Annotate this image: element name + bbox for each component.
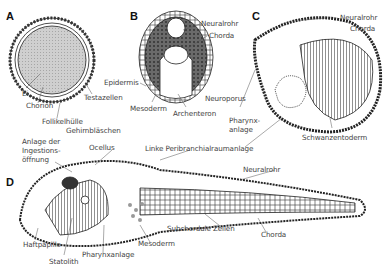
label-haftpapille: Haftpapille xyxy=(23,241,61,249)
label-statolith: Statolith xyxy=(49,258,78,266)
label-peribranchial: Linke Peribranchialraumanlage xyxy=(145,145,253,153)
panel-c-embryo xyxy=(254,18,380,132)
label-pharynx-1: Pharynx- xyxy=(229,117,260,125)
label-epidermis: Epidermis xyxy=(104,79,139,87)
label-neuroporus: Neuroporus xyxy=(205,95,246,103)
label-gehirnblaeschen: Gehirnbläschen xyxy=(66,127,121,135)
label-d-neuralrohr: Neuralrohr xyxy=(243,166,280,174)
panel-letter-d: D xyxy=(6,176,14,188)
label-d-chorda: Chorda xyxy=(261,231,286,239)
label-ei: Ei xyxy=(22,90,28,98)
label-anlage-3: öffnung xyxy=(22,156,49,164)
label-b-mesoderm: Mesoderm xyxy=(130,105,167,113)
label-ocellus: Ocellus xyxy=(89,144,115,152)
panel-letter-a: A xyxy=(6,10,14,22)
panel-d-larva xyxy=(20,161,365,246)
label-c-chorda: Chorda xyxy=(350,25,375,33)
label-d-mesoderm: Mesoderm xyxy=(138,240,175,248)
label-schwanzentoderm: Schwanzentoderm xyxy=(302,134,367,142)
panel-letter-c: C xyxy=(252,10,260,22)
label-anlage-2: Ingestions- xyxy=(22,147,60,155)
label-pharynxanlage: Pharynxanlage xyxy=(82,251,134,259)
label-pharynx-2: anlage xyxy=(229,126,253,134)
label-archenteron: Archenteron xyxy=(173,110,216,118)
label-b-chorda: Chorda xyxy=(209,32,234,40)
label-follikelhuelle: Follikelhülle xyxy=(42,118,83,126)
label-c-neuralrohr: Neuralrohr xyxy=(340,14,377,22)
label-anlage-1: Anlage der xyxy=(22,138,60,146)
label-chorion: Chorion xyxy=(26,102,53,110)
panel-letter-b: B xyxy=(130,10,138,22)
label-b-neuralrohr: Neuralrohr xyxy=(201,20,238,28)
label-subchordale: Subchordale Zellen xyxy=(167,225,235,233)
label-testazellen: Testazellen xyxy=(84,94,123,102)
